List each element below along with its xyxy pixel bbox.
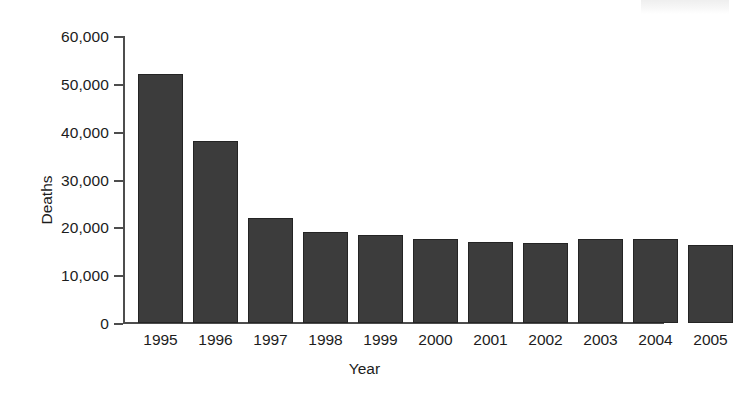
x-axis-title: Year xyxy=(0,360,729,378)
x-axis-tick-label: 1997 xyxy=(253,331,287,349)
y-axis-tick-label: 40,000 xyxy=(61,124,109,142)
y-axis-tick: 30,000 xyxy=(114,180,123,182)
x-axis-tick-label: 1995 xyxy=(143,331,177,349)
scan-artifact xyxy=(641,0,729,14)
y-axis-tick: 40,000 xyxy=(114,132,123,134)
x-axis-tick-label: 2005 xyxy=(693,331,727,349)
x-axis-tick-label: 2000 xyxy=(418,331,452,349)
bar xyxy=(633,239,678,323)
bar xyxy=(358,235,403,323)
x-axis-tick-label: 2002 xyxy=(528,331,562,349)
x-axis-tick-label: 1998 xyxy=(308,331,342,349)
y-axis-tick-label: 30,000 xyxy=(61,172,109,190)
bar xyxy=(413,239,458,323)
x-axis-tick-label: 2001 xyxy=(473,331,507,349)
y-axis-tick: 10,000 xyxy=(114,275,123,277)
bar xyxy=(688,245,733,323)
y-axis-tick-label: 10,000 xyxy=(61,267,109,285)
bar xyxy=(468,242,513,323)
y-axis-tick: 20,000 xyxy=(114,227,123,229)
bar-series xyxy=(123,36,664,323)
x-axis-tick-label: 1999 xyxy=(363,331,397,349)
y-axis-title: Deaths xyxy=(38,175,56,224)
y-axis-tick-label: 60,000 xyxy=(61,28,109,46)
y-axis-tick: 0 xyxy=(114,323,123,325)
bar xyxy=(523,243,568,323)
y-axis-tick: 50,000 xyxy=(114,84,123,86)
bar xyxy=(248,218,293,323)
x-axis-tick-label: 2004 xyxy=(638,331,672,349)
bar xyxy=(578,239,623,323)
y-axis-tick-label: 50,000 xyxy=(61,76,109,94)
bar xyxy=(138,74,183,323)
plot-area: 010,00020,00030,00040,00050,00060,000 xyxy=(123,36,664,323)
y-axis-tick-label: 20,000 xyxy=(61,219,109,237)
bar xyxy=(193,141,238,323)
bar xyxy=(303,232,348,323)
x-axis-tick-label: 1996 xyxy=(198,331,232,349)
x-axis-tick-label: 2003 xyxy=(583,331,617,349)
y-axis-tick-label: 0 xyxy=(100,315,109,333)
y-axis-tick: 60,000 xyxy=(114,36,123,38)
